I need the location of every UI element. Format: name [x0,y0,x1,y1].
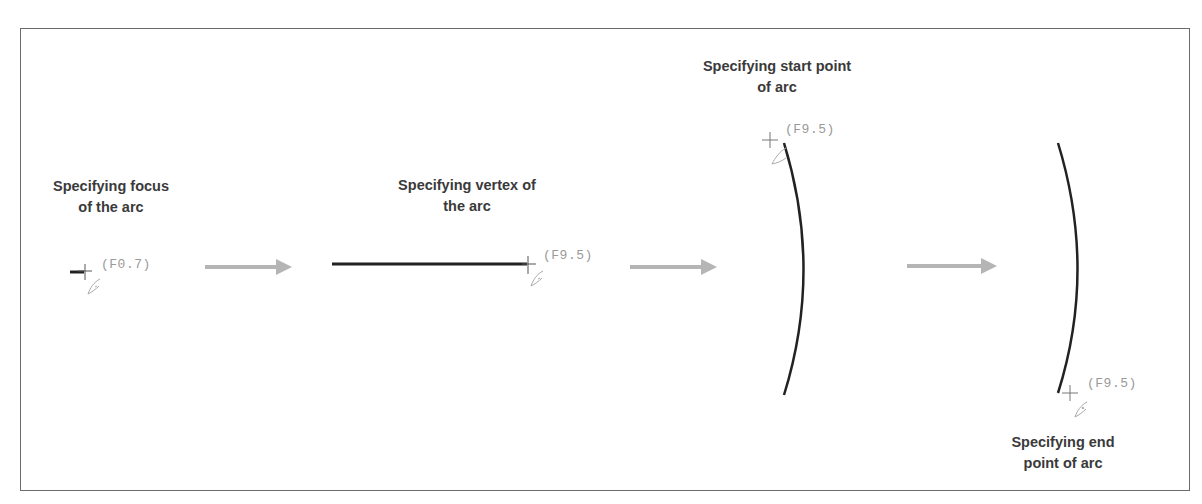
crosshair-cursor-icon [762,132,778,148]
step-3-label-line1: Specifying start point [703,56,851,77]
step-4-coord: (F9.5) [1087,376,1137,391]
pen-icon [772,148,786,164]
step-1-coord: (F0.7) [101,257,151,272]
step-1-label-line2: of the arc [53,197,169,218]
step-2-coord: (F9.5) [543,248,593,263]
step-2-label-line1: Specifying vertex of [398,175,536,196]
step-4-label-line2: point of arc [1011,453,1114,474]
crosshair-cursor-icon [1062,385,1078,401]
step-4-label: Specifying end point of arc [1011,432,1114,474]
step-3-label: Specifying start point of arc [703,56,851,98]
parabolic-arc-start [784,143,804,395]
parabolic-arc-end [1058,143,1078,393]
diagram-canvas [0,0,1202,504]
step-1-label-line1: Specifying focus [53,176,169,197]
step-4-label-line1: Specifying end [1011,432,1114,453]
pen-icon [1075,402,1087,417]
step-2-label: Specifying vertex of the arc [398,175,536,217]
pen-icon [531,271,543,286]
step-3-label-line2: of arc [703,77,851,98]
step-1-label: Specifying focus of the arc [53,176,169,218]
step-3-coord: (F9.5) [785,122,835,137]
step-2-label-line2: the arc [398,196,536,217]
pen-icon [88,279,100,294]
